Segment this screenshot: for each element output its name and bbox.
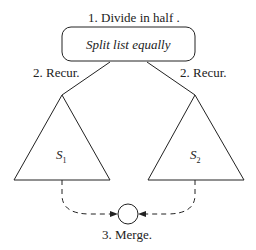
merge-arrow-left <box>62 180 117 214</box>
split-box-label: Split list equally <box>86 38 171 51</box>
subtree-s2 <box>148 95 244 180</box>
recur-right-label: 2. Recur. <box>180 66 227 79</box>
merge-arrow-right <box>139 180 195 214</box>
subtree-s1 <box>14 95 110 180</box>
merge-label: 3. Merge. <box>102 228 152 241</box>
recur-left-label: 2. Recur. <box>33 66 80 79</box>
s2-label: S2 <box>190 148 201 165</box>
merge-node <box>118 204 138 224</box>
s1-label: S1 <box>56 148 67 165</box>
divide-label: 1. Divide in half . <box>88 11 180 24</box>
